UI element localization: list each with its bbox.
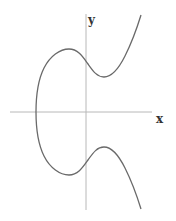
elliptic-curve-diagram: y x — [0, 0, 176, 221]
curve-lower-branch — [36, 112, 141, 209]
y-axis-label: y — [87, 13, 96, 27]
curve-upper-branch — [36, 15, 141, 112]
x-axis-label: x — [156, 112, 164, 126]
